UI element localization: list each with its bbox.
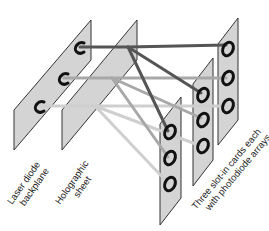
label-holo: Holographic sheet — [53, 158, 100, 212]
laser-diode-backplane — [14, 20, 91, 150]
label-laser: Laser diode backplane — [5, 159, 52, 212]
optical-interconnect-diagram: Laser diode backplane Holographic sheet … — [0, 0, 269, 231]
card-front — [160, 97, 181, 225]
card-rear — [218, 18, 238, 145]
